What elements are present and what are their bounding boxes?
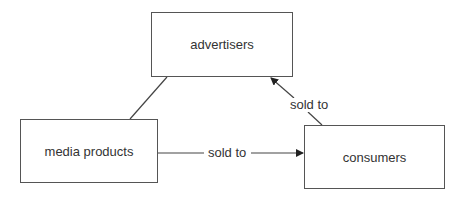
media-products-node: media products	[20, 119, 158, 183]
consumers-node: consumers	[304, 125, 445, 189]
media-to-consumers-label: sold to	[206, 146, 248, 160]
consumers-label: consumers	[343, 150, 407, 165]
advertisers-node: advertisers	[151, 12, 293, 77]
media-advertisers-line	[130, 77, 167, 119]
consumers-advertisers-line-a	[308, 112, 322, 125]
media-products-label: media products	[45, 144, 134, 159]
consumers-advertisers-arrow	[271, 78, 294, 98]
consumers-to-advertisers-label: sold to	[288, 98, 330, 112]
advertisers-label: advertisers	[190, 37, 254, 52]
